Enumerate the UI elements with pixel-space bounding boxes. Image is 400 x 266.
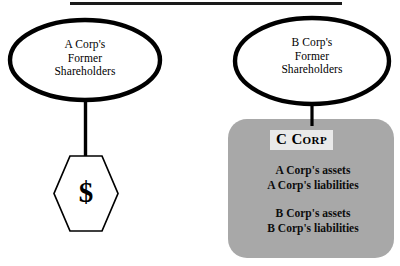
c-corp-title: C Corp <box>270 130 333 150</box>
dollar-sign-icon: $ <box>53 175 119 209</box>
c-corp-a-assets: A Corp's assets <box>232 163 394 178</box>
transaction-structure-diagram: A Corp's Former Shareholders B Corp's Fo… <box>0 0 400 266</box>
b-corp-shareholders-label: B Corp's Former Shareholders <box>250 36 374 77</box>
c-corp-b-assets: B Corp's assets <box>232 206 394 221</box>
c-corp-a-liabilities: A Corp's liabilities <box>232 178 394 193</box>
balance-sheet-spacer <box>232 193 394 206</box>
a-corp-shareholders-label: A Corp's Former Shareholders <box>24 38 146 79</box>
c-corp-b-liabilities: B Corp's liabilities <box>232 221 394 236</box>
c-corp-balance-sheet: A Corp's assets A Corp's liabilities B C… <box>232 163 394 236</box>
